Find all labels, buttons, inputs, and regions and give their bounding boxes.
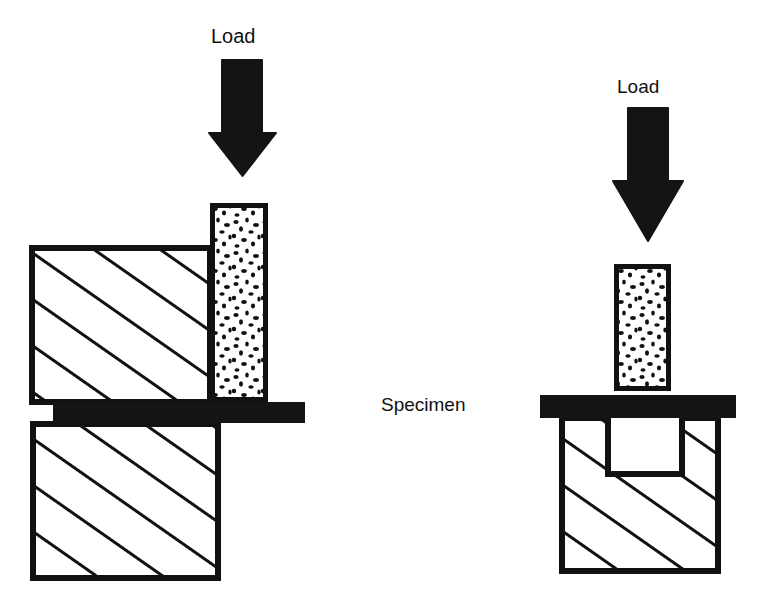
block-cavity-right [608,414,682,474]
load-label-left: Load [211,25,256,48]
upper-fixture-block-left [32,248,210,402]
specimen-column-left [210,203,268,402]
specimen-column-right [614,264,671,391]
lower-fixture-block-left [33,424,218,578]
load-plate-right [540,395,736,418]
load-label-right: Load [617,76,659,98]
load-plate-left [53,402,305,423]
specimen-label: Specimen [381,394,466,416]
